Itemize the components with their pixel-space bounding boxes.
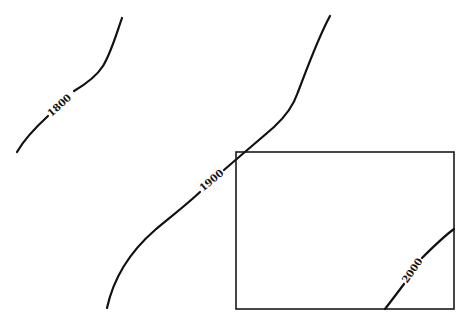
contour-1800: 1800 bbox=[17, 18, 122, 152]
contour-line-1800-lower bbox=[17, 116, 48, 152]
contour-line-2000-lower bbox=[385, 284, 404, 309]
contour-label-2000: 2000 bbox=[400, 256, 425, 285]
contour-label-1800: 1800 bbox=[45, 92, 73, 119]
contour-line-1900-upper bbox=[224, 16, 330, 170]
study-area-frame bbox=[236, 152, 454, 309]
contour-label-1900: 1900 bbox=[197, 167, 225, 193]
contour-line-1800-upper bbox=[74, 18, 122, 91]
contour-2000: 2000 bbox=[385, 229, 454, 309]
contour-line-1900-lower bbox=[107, 192, 200, 308]
contour-map: 1800 1900 2000 bbox=[0, 0, 470, 325]
contour-1900: 1900 bbox=[107, 16, 330, 308]
contour-line-2000-upper bbox=[422, 229, 454, 258]
